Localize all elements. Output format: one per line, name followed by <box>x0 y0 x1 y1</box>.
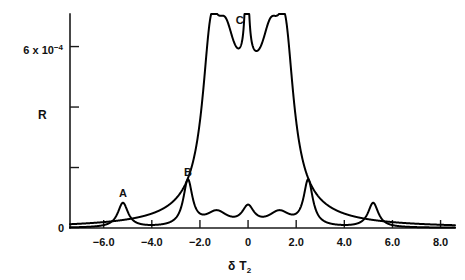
y-tick-exponent: −4 <box>54 43 64 52</box>
x-axis-tick-label: 6.0 <box>385 236 400 248</box>
plot-figure: −6.0−4.0−2.002.04.06.08.0 6 x 10−4 0 R δ… <box>0 0 465 280</box>
x-axis-tick-label: 4.0 <box>337 236 352 248</box>
peak-label-b: B <box>184 166 192 178</box>
x-axis-title-subscript: 2 <box>247 266 252 275</box>
x-axis-tick-label: −2.0 <box>189 236 211 248</box>
sharp-resonance-curve <box>70 179 455 227</box>
x-axis-tick-label: −4.0 <box>141 236 163 248</box>
broad-plateau-curve <box>70 14 455 225</box>
y-axis-ticks <box>70 47 79 168</box>
y-tick-mantissa: 6 x 10 <box>23 44 54 56</box>
x-axis-tick-label: 8.0 <box>433 236 448 248</box>
y-tick-label-zero: 0 <box>58 222 64 234</box>
peak-annotations: ABC <box>119 14 244 198</box>
x-axis-tick-labels: −6.0−4.0−2.002.04.06.08.0 <box>93 236 448 248</box>
peak-label-a: A <box>119 187 127 199</box>
x-axis-tick-label: −6.0 <box>93 236 115 248</box>
x-axis-tick-label: 2.0 <box>289 236 304 248</box>
x-axis-title: δT2 <box>228 259 252 275</box>
x-axis-tick-label: 0 <box>245 236 251 248</box>
resonance-spectrum-chart: −6.0−4.0−2.002.04.06.08.0 6 x 10−4 0 R δ… <box>0 0 465 280</box>
x-axis-title-delta: δ <box>228 259 235 273</box>
y-axis-title: R <box>38 108 47 122</box>
peak-label-c: C <box>236 14 244 26</box>
y-tick-label-main: 6 x 10−4 <box>23 43 63 56</box>
